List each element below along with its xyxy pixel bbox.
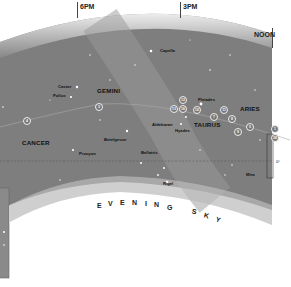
- star-hyades: Hyades: [175, 128, 190, 133]
- moon-marker: 13: [170, 105, 178, 113]
- title-letter: V: [108, 200, 113, 207]
- constellation-gemini: GEMINI: [97, 87, 120, 94]
- star-aldebaran: Aldebaran: [152, 122, 172, 127]
- moon-marker: 16: [179, 105, 187, 113]
- moon-marker: 11: [220, 106, 228, 114]
- star-procyon: Procyon: [79, 151, 96, 156]
- constellation-cancer: CANCER: [22, 139, 50, 146]
- title-letter: E: [120, 199, 125, 206]
- evening-sky-chart: 6PM 3PM NOON GEMINI CANCER TAURUS ARIES …: [0, 0, 291, 287]
- time-6pm: 6PM: [80, 3, 94, 10]
- title-letter: E: [97, 202, 102, 209]
- title-letter: S: [191, 208, 197, 216]
- moon-marker: 10: [193, 106, 201, 114]
- moon-marker: 5: [246, 123, 254, 131]
- constellation-aries: ARIES: [240, 105, 260, 112]
- moon-marker: 1: [271, 125, 279, 133]
- equator-label: 0°: [276, 159, 280, 164]
- moon-marker: 7: [210, 113, 218, 121]
- moon-marker: 9: [234, 128, 242, 136]
- moon-marker: 3: [95, 103, 103, 111]
- star-bellatrix: Bellatrix: [141, 150, 158, 155]
- star-betelgeuse: Betelgeuse: [104, 137, 126, 142]
- star-castor: Castor: [58, 84, 71, 89]
- time-noon: NOON: [254, 31, 275, 38]
- title-letter: I: [145, 200, 147, 207]
- time-3pm: 3PM: [183, 3, 197, 10]
- title-letter: G: [167, 204, 172, 211]
- title-letter: N: [154, 201, 159, 208]
- moon-marker: 4: [23, 117, 31, 125]
- time-tick-3pm: [180, 2, 181, 18]
- star-pollux: Pollux: [53, 93, 66, 98]
- moon-marker: 12: [179, 96, 187, 104]
- constellation-taurus: TAURUS: [194, 121, 221, 128]
- star-rigel: Rigel: [163, 181, 173, 186]
- moon-marker: 28: [271, 134, 279, 142]
- title-letter: N: [132, 199, 137, 206]
- time-tick-6pm: [77, 2, 78, 18]
- star-pleiades: Pleiades: [198, 97, 215, 102]
- star-capella: Capella: [160, 48, 175, 53]
- moon-marker: 8: [228, 115, 236, 123]
- star-mira: Mira: [246, 172, 255, 177]
